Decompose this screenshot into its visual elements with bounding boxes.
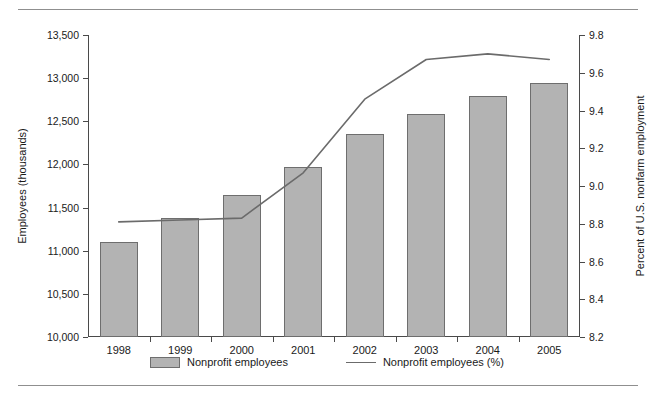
right-tick-label: 8.2 xyxy=(589,332,604,343)
left-axis-title: Employees (thousands) xyxy=(16,128,29,244)
legend-label-line: Nonprofit employees (%) xyxy=(383,356,504,368)
right-tick-label: 9.8 xyxy=(589,30,604,41)
right-tick-label: 8.4 xyxy=(589,294,604,305)
x-tick-mark xyxy=(211,337,212,342)
chart-figure: Employees (thousands) Percent of U.S. no… xyxy=(0,0,654,398)
left-tick-label: 12,500 xyxy=(47,116,79,127)
left-tick-label: 12,000 xyxy=(47,159,79,170)
left-tick-label: 10,500 xyxy=(47,288,79,299)
right-tick-mark xyxy=(580,299,585,300)
line-swatch-icon xyxy=(346,362,376,363)
left-tick-label: 13,000 xyxy=(47,73,79,84)
bar-swatch-icon xyxy=(150,357,180,368)
x-tick-mark xyxy=(150,337,151,342)
right-tick-mark xyxy=(580,111,585,112)
chart-legend: Nonprofit employees Nonprofit employees … xyxy=(0,356,654,368)
right-tick-mark xyxy=(580,337,585,338)
left-tick-label: 13,500 xyxy=(47,30,79,41)
left-tick-mark xyxy=(83,337,88,338)
x-tick-mark xyxy=(519,337,520,342)
x-tick-mark xyxy=(273,337,274,342)
right-axis-title: Percent of U.S. nonfarm employment xyxy=(634,96,647,277)
left-tick-label: 10,000 xyxy=(47,332,79,343)
right-tick-mark xyxy=(580,148,585,149)
right-tick-mark xyxy=(580,186,585,187)
right-tick-label: 9.6 xyxy=(589,67,604,78)
right-tick-mark xyxy=(580,262,585,263)
right-tick-label: 9.2 xyxy=(589,143,604,154)
legend-item-line: Nonprofit employees (%) xyxy=(346,356,504,368)
plot-area: 10,00010,50011,00011,50012,00012,50013,0… xyxy=(88,35,580,337)
line-series xyxy=(88,35,580,337)
right-tick-label: 8.6 xyxy=(589,256,604,267)
right-tick-label: 8.8 xyxy=(589,218,604,229)
right-tick-label: 9.0 xyxy=(589,181,604,192)
left-tick-label: 11,000 xyxy=(48,245,79,256)
right-tick-label: 9.4 xyxy=(589,105,604,116)
top-rule xyxy=(18,9,638,10)
x-tick-mark xyxy=(396,337,397,342)
right-tick-mark xyxy=(580,224,585,225)
right-tick-mark xyxy=(580,35,585,36)
bottom-rule xyxy=(18,385,638,386)
x-tick-mark xyxy=(334,337,335,342)
legend-item-bar: Nonprofit employees xyxy=(150,356,288,368)
legend-label-bar: Nonprofit employees xyxy=(187,356,288,368)
left-tick-label: 11,500 xyxy=(48,202,79,213)
percent-line xyxy=(119,54,550,222)
x-tick-mark xyxy=(457,337,458,342)
right-tick-mark xyxy=(580,73,585,74)
